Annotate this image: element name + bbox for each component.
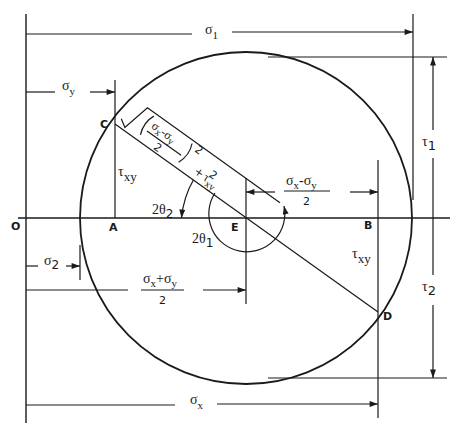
svg-text:2: 2 bbox=[192, 143, 205, 158]
svg-text:σx+σy: σx+σy bbox=[143, 271, 178, 289]
svg-text:2: 2 bbox=[151, 140, 164, 155]
half-sum-label: σx+σy 2 bbox=[141, 271, 184, 307]
angle-2theta2-arc bbox=[182, 180, 194, 218]
point-e-label: E bbox=[231, 221, 239, 234]
radical-sign bbox=[118, 99, 280, 226]
mohr-circle-diagram: σ1 σy τ1 τ2 σx-σy 2 σ2 σx+σy 2 σx τxy τx… bbox=[0, 0, 462, 432]
svg-text:2: 2 bbox=[159, 294, 166, 307]
svg-text:σx-σy: σx-σy bbox=[286, 173, 317, 191]
tau-xy-label-left: τxy bbox=[118, 164, 137, 184]
radius-formula: σx-σy 2 2 +τxy2 bbox=[116, 98, 281, 230]
half-diff-label: σx-σy 2 bbox=[284, 173, 330, 208]
sigmax-label: σx bbox=[190, 392, 204, 411]
sigmay-label: σy bbox=[62, 78, 76, 97]
point-b-label: B bbox=[364, 219, 372, 232]
angle-2theta1-arc bbox=[209, 193, 285, 252]
svg-text:+τxy2: +τxy2 bbox=[190, 160, 224, 193]
angle-2theta1-label: 2θ1 bbox=[192, 231, 213, 250]
point-o-label: O bbox=[11, 220, 20, 233]
point-d-label: D bbox=[383, 310, 392, 323]
sigma2-label: σ2 bbox=[44, 253, 59, 272]
tau1-label: τ1 bbox=[422, 134, 436, 153]
point-a-label: A bbox=[109, 221, 118, 234]
point-c-label: C bbox=[100, 118, 108, 131]
sigma1-label: σ1 bbox=[205, 22, 218, 41]
tau-xy-label-right: τxy bbox=[352, 246, 371, 266]
svg-text:2: 2 bbox=[303, 195, 310, 208]
tau2-label: τ2 bbox=[422, 279, 436, 298]
